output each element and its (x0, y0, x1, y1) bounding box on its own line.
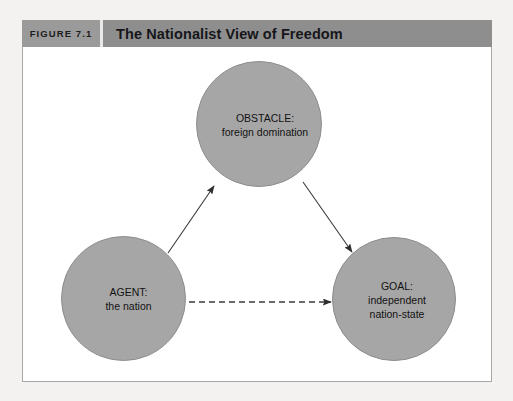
node-goal-labels: GOAL: independent nation-state (368, 279, 426, 321)
figure-number-cell: FIGURE 7.1 (22, 20, 100, 47)
figure-header: FIGURE 7.1 The Nationalist View of Freed… (22, 20, 492, 47)
node-goal: GOAL: independent nation-state (332, 237, 456, 361)
node-obstacle: OBSTACLE: foreign domination (196, 61, 322, 187)
figure-title-label: The Nationalist View of Freedom (116, 26, 343, 42)
figure-container: FIGURE 7.1 The Nationalist View of Freed… (0, 0, 513, 401)
node-agent: AGENT: the nation (61, 236, 186, 361)
node-obstacle-line-1: OBSTACLE: (222, 111, 308, 125)
node-goal-line-3: nation-state (368, 307, 426, 321)
node-goal-line-2: independent (368, 293, 426, 307)
node-goal-line-1: GOAL: (368, 279, 426, 293)
node-agent-line-2: the nation (105, 299, 151, 313)
figure-title-cell: The Nationalist View of Freedom (103, 20, 492, 47)
node-obstacle-line-2: foreign domination (222, 125, 308, 139)
node-agent-labels: AGENT: the nation (105, 285, 151, 313)
node-agent-line-1: AGENT: (105, 285, 151, 299)
node-obstacle-labels: OBSTACLE: foreign domination (222, 111, 308, 139)
figure-number-label: FIGURE 7.1 (30, 28, 93, 39)
